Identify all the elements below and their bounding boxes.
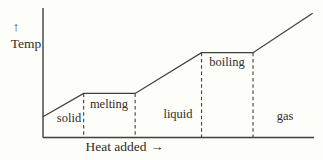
temp-axis-up-arrow-icon: ↑	[13, 20, 20, 33]
heating-curve-plot	[0, 0, 323, 160]
y-axis-label: Temp	[11, 37, 42, 51]
heating-curve-figure: ↑ Temp Heat added → solid melting liquid…	[0, 0, 323, 160]
phase-label-solid: solid	[57, 112, 81, 125]
phase-label-boiling: boiling	[209, 56, 244, 69]
heat-axis-right-arrow-icon: →	[151, 140, 164, 153]
phase-label-melting: melting	[90, 98, 128, 111]
phase-label-gas: gas	[277, 110, 294, 123]
phase-label-liquid: liquid	[163, 108, 192, 121]
x-axis-label: Heat added	[85, 140, 146, 154]
